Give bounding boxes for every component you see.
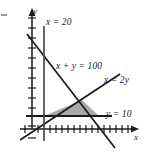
x-axis-label: x xyxy=(134,133,138,142)
label-y-equals-10: y = 10 xyxy=(106,110,131,120)
label-x-plus-y-equals-100: x + y = 100 xyxy=(56,62,102,72)
label-x-equals-2y: x = 2y xyxy=(104,76,129,86)
y-axis-label: y xyxy=(33,7,37,16)
feasible-region-shading xyxy=(44,100,99,116)
graph-figure: x = 20 x + y = 100 x = 2y y = 10 y x xyxy=(0,0,147,153)
line-x-plus-y-100 xyxy=(27,34,115,148)
label-x-equals-20: x = 20 xyxy=(46,18,71,28)
